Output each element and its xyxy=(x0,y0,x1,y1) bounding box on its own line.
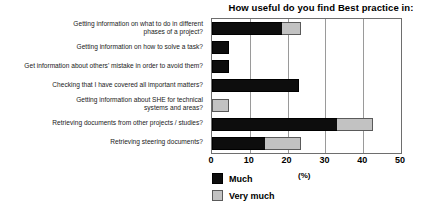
category-label: Get information about others' mistake in… xyxy=(24,62,203,70)
bar-segment-very-much xyxy=(212,99,229,112)
bar-segment-much xyxy=(212,41,229,54)
x-axis-tick-label: 20 xyxy=(282,155,292,165)
legend-label: Much xyxy=(229,174,253,184)
bar-row xyxy=(212,19,401,38)
x-axis-tick-label: 40 xyxy=(357,155,367,165)
x-axis-tick-label: 30 xyxy=(319,155,329,165)
chart-title: How useful do you find Best practice in: xyxy=(213,2,429,13)
bar-row xyxy=(212,57,401,76)
category-label: Retrieving documents from other projects… xyxy=(52,119,203,127)
category-label: Getting information on what to do in dif… xyxy=(73,20,203,36)
bar-segment-much xyxy=(212,79,299,92)
bar-stack xyxy=(212,60,229,73)
bar-stack xyxy=(212,118,373,131)
percent-unit-label: (%) xyxy=(298,171,310,180)
category-label: Retrieving steering documents? xyxy=(110,138,203,146)
plot-area xyxy=(211,18,402,154)
category-axis-labels: Getting information on what to do in dif… xyxy=(0,18,206,152)
bar-row xyxy=(212,115,401,134)
legend-label: Very much xyxy=(229,191,275,201)
bar-segment-very-much xyxy=(282,22,301,35)
bar-stack xyxy=(212,41,229,54)
category-label: Getting information on how to solve a ta… xyxy=(77,43,203,51)
x-axis-tick-label: 10 xyxy=(244,155,254,165)
x-axis-tick-labels: 01020304050 xyxy=(211,155,400,167)
bar-segment-much xyxy=(212,60,229,73)
bars-layer xyxy=(212,19,401,153)
bar-segment-much xyxy=(212,118,337,131)
x-axis-tick-label: 0 xyxy=(208,155,213,165)
bar-chart: How useful do you find Best practice in:… xyxy=(0,0,429,209)
bar-stack xyxy=(212,99,229,112)
x-axis-tick-label: 50 xyxy=(395,155,405,165)
bar-stack xyxy=(212,137,301,150)
bar-segment-very-much xyxy=(265,137,301,150)
bar-stack xyxy=(212,22,301,35)
bar-row xyxy=(212,96,401,115)
bar-segment-much xyxy=(212,137,265,150)
category-label: Checking that I have covered all importa… xyxy=(52,81,203,89)
gray-square-swatch-icon xyxy=(212,190,223,201)
bar-row xyxy=(212,38,401,57)
bar-stack xyxy=(212,79,299,92)
bar-segment-much xyxy=(212,22,282,35)
chart-legend: Much Very much (%) xyxy=(212,171,412,205)
bar-segment-very-much xyxy=(337,118,373,131)
bar-row xyxy=(212,134,401,153)
category-label: Getting information about SHE for techni… xyxy=(76,96,203,112)
black-square-swatch-icon xyxy=(212,173,223,184)
legend-item-very-much: Very much xyxy=(212,188,275,203)
legend-item-much: Much xyxy=(212,171,253,186)
bar-row xyxy=(212,76,401,95)
